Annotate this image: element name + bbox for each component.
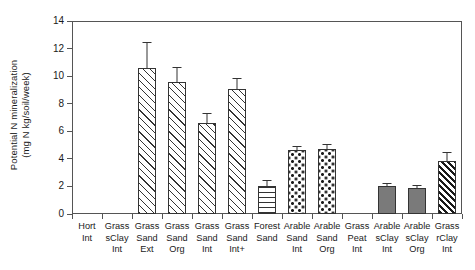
bar-group [132, 21, 162, 214]
x-axis-tick [282, 214, 283, 219]
bar-group [252, 21, 282, 214]
bar-group [282, 21, 312, 214]
bar [228, 89, 246, 214]
bar [378, 186, 396, 214]
x-axis-label-line: Int [426, 244, 468, 256]
x-axis-tick [462, 214, 463, 219]
y-axis-label-line2: (mg N kg/soil/week) [20, 60, 32, 170]
y-tick-label: 6 [58, 124, 64, 138]
y-tick-label: 0 [58, 207, 64, 221]
y-tick-label: 14 [53, 14, 64, 28]
error-bar-line [177, 67, 178, 81]
bar-group [372, 21, 402, 214]
bar [168, 82, 186, 214]
bar [138, 68, 156, 214]
x-axis-tick [72, 214, 73, 219]
error-bar-cap [443, 152, 452, 153]
bar-group [222, 21, 252, 214]
error-bar-line [207, 113, 208, 123]
chart-figure: Potential N mineralization (mg N kg/soil… [0, 0, 475, 270]
x-axis-tick [102, 214, 103, 219]
bar [408, 188, 426, 214]
x-axis-tick [312, 214, 313, 219]
error-bar-cap [203, 113, 212, 114]
x-axis-tick [132, 214, 133, 219]
bar [288, 150, 306, 214]
y-tick-label: 2 [58, 179, 64, 193]
bar-group [72, 21, 102, 214]
x-axis-label-line: Int+ [216, 244, 258, 256]
error-bar-cap [173, 67, 182, 68]
y-tick-label: 8 [58, 97, 64, 111]
bar [438, 161, 456, 214]
error-bar-cap [323, 144, 332, 145]
x-axis-label: GrassrClayInt [426, 221, 468, 256]
bar-group [192, 21, 222, 214]
error-bar-line [447, 152, 448, 161]
bar-group [162, 21, 192, 214]
bar [258, 186, 276, 214]
bar-group [402, 21, 432, 214]
y-tick-label: 4 [58, 152, 64, 166]
error-bar-cap [143, 42, 152, 43]
x-axis-tick [372, 214, 373, 219]
x-axis-tick [192, 214, 193, 219]
x-axis-tick [342, 214, 343, 219]
bar-group [102, 21, 132, 214]
x-axis-label-line: rClay [426, 233, 468, 245]
y-tick-label: 12 [53, 42, 64, 56]
y-tick-label: 10 [53, 69, 64, 83]
x-axis-tick [162, 214, 163, 219]
bar-group [312, 21, 342, 214]
x-axis-label-line: Grass [426, 221, 468, 233]
y-axis-label-line1: Potential N mineralization [8, 60, 20, 170]
bar [318, 149, 336, 214]
error-bar-cap [263, 180, 272, 181]
x-axis-tick [252, 214, 253, 219]
error-bar-line [147, 42, 148, 68]
y-axis-label: Potential N mineralization (mg N kg/soil… [0, 0, 40, 230]
error-bar-cap [293, 146, 302, 147]
x-axis-tick [432, 214, 433, 219]
bar [198, 123, 216, 214]
error-bar-cap [233, 78, 242, 79]
x-axis-tick [222, 214, 223, 219]
error-bar-cap [413, 185, 422, 186]
error-bar-cap [383, 183, 392, 184]
bar-group [342, 21, 372, 214]
bars-layer [72, 21, 462, 214]
x-axis-tick [402, 214, 403, 219]
error-bar-line [237, 78, 238, 89]
bar-group [432, 21, 462, 214]
x-axis-labels: HortIntGrasssClayIntGrassSandExtGrassSan… [72, 221, 462, 267]
